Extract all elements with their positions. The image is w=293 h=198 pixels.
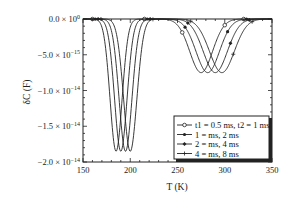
marker-open-circle (223, 23, 227, 27)
y-tick-labels: 0.0 × 100−5.0 × 10−15−1.0 × 10−14−1.5 × … (38, 14, 80, 168)
marker-filled-circle (183, 26, 186, 29)
marker-diamond (228, 41, 232, 45)
x-tick-label: 200 (124, 165, 137, 175)
marker-open-circle (180, 31, 184, 35)
marker-filled-circle (226, 30, 229, 33)
legend-label: 4 = ms, 8 ms (195, 149, 239, 159)
x-tick-labels: 150200250300350 (77, 165, 279, 175)
x-tick-label: 150 (77, 165, 90, 175)
legend-label: t1 = 0.5 ms, t2 = 1 ms (195, 120, 270, 130)
marker-plus (231, 52, 235, 56)
chart: 0.0 × 100−5.0 × 10−15−1.0 × 10−14−1.5 × … (0, 0, 293, 198)
marker-filled-circle (183, 133, 186, 136)
y-axis-title: δC (F) (22, 80, 33, 105)
y-tick-label: −5.0 × 10−15 (38, 49, 80, 60)
y-tick-label: −1.0 × 10−14 (38, 85, 80, 96)
legend: t1 = 0.5 ms, t2 = 1 ms1 = ms, 2 ms2 = ms… (174, 116, 272, 162)
y-tick-label: −1.5 × 10−14 (38, 121, 80, 132)
y-tick-label: −2.0 × 10−14 (38, 157, 80, 168)
x-tick-label: 250 (171, 165, 184, 175)
x-axis-title: T (K) (166, 182, 187, 193)
marker-open-circle (183, 123, 187, 127)
legend-label: 2 = ms, 4 ms (195, 139, 239, 149)
legend-label: 1 = ms, 2 ms (195, 130, 239, 140)
x-tick-label: 300 (218, 165, 231, 175)
x-tick-label: 350 (266, 165, 279, 175)
y-tick-label: 0.0 × 100 (49, 14, 80, 25)
